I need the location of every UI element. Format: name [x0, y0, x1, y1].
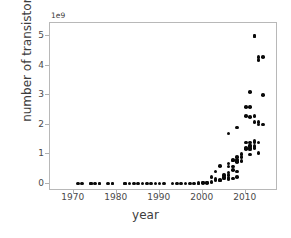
scatter-point — [227, 132, 231, 136]
scatter-point — [253, 144, 257, 148]
x-axis-tick-labels: 19701980199020002010 — [0, 192, 291, 208]
y-tick-mark — [45, 124, 49, 125]
scatter-point — [93, 182, 97, 186]
scatter-point — [106, 182, 110, 186]
y-tick-label: 1 — [38, 148, 44, 158]
scatter-point — [261, 93, 265, 97]
scatter-point — [111, 182, 115, 186]
scatter-point — [80, 182, 84, 186]
scatter-point — [253, 139, 257, 143]
scatter-point — [132, 182, 136, 186]
scatter-point — [210, 175, 214, 179]
scatter-point — [248, 105, 252, 109]
scatter-point — [248, 90, 252, 94]
scatter-point — [76, 182, 80, 186]
scatter-point — [231, 177, 235, 181]
plot-area — [49, 22, 277, 190]
x-axis-label: year — [0, 208, 291, 222]
y-tick-mark — [45, 65, 49, 66]
y-tick-label: 3 — [38, 89, 44, 99]
y-tick-label: 0 — [38, 178, 44, 188]
scatter-point — [128, 182, 132, 186]
scatter-point — [179, 182, 183, 186]
scatter-point — [149, 182, 153, 186]
scatter-point — [214, 170, 218, 174]
scatter-point — [244, 105, 248, 109]
y-tick-mark — [45, 94, 49, 95]
scatter-point — [235, 175, 239, 179]
y-tick-label: 2 — [38, 119, 44, 129]
scatter-point — [253, 114, 257, 118]
scatter-point — [231, 168, 235, 172]
scatter-point — [171, 182, 175, 186]
y-tick-label: 5 — [38, 30, 44, 40]
scatter-point — [248, 144, 252, 148]
scatter-point — [184, 182, 188, 186]
scatter-point — [123, 182, 127, 186]
scatter-point — [240, 159, 244, 163]
scatter-point — [248, 141, 252, 145]
scatter-point — [89, 182, 93, 186]
scatter-point — [192, 182, 196, 186]
scatter-point — [244, 146, 248, 150]
scatter-points-layer — [50, 23, 276, 189]
scatter-point — [261, 55, 265, 59]
scatter-point — [154, 182, 158, 186]
scatter-point — [253, 120, 257, 124]
scatter-point — [197, 181, 201, 185]
y-axis-label: number of transistors — [20, 0, 34, 142]
scatter-point — [231, 158, 235, 162]
scatter-point — [136, 182, 140, 186]
scatter-point — [162, 182, 166, 186]
scatter-point — [257, 120, 261, 124]
scatter-point — [240, 152, 244, 156]
x-tick-mark — [116, 190, 117, 194]
scatter-point — [205, 181, 209, 185]
scatter-point — [248, 115, 252, 119]
y-tick-label: 4 — [38, 60, 44, 70]
scatter-point — [248, 153, 252, 157]
scatter-point — [141, 182, 145, 186]
scatter-point — [261, 123, 265, 127]
scatter-point — [235, 170, 239, 174]
y-tick-mark — [45, 35, 49, 36]
scatter-point — [201, 181, 205, 185]
x-tick-mark — [202, 190, 203, 194]
scatter-point — [235, 126, 239, 130]
scatter-point — [244, 114, 248, 118]
scatter-point — [227, 165, 231, 169]
scatter-point — [253, 34, 257, 38]
scatter-point — [218, 178, 222, 182]
scatter-point — [158, 182, 162, 186]
y-tick-mark — [45, 153, 49, 154]
scatter-point — [98, 182, 102, 186]
scatter-point — [257, 151, 261, 155]
y-tick-mark — [45, 183, 49, 184]
scatter-point — [222, 173, 226, 177]
x-tick-mark — [159, 190, 160, 194]
chart-figure: 1e9 012345 19701980199020002010 year num… — [0, 0, 291, 238]
scatter-point — [145, 182, 149, 186]
scatter-point — [257, 141, 261, 145]
scatter-point — [231, 165, 235, 169]
scatter-point — [188, 182, 192, 186]
scatter-point — [210, 180, 214, 184]
scatter-point — [244, 141, 248, 145]
x-tick-mark — [73, 190, 74, 194]
scatter-point — [218, 164, 222, 168]
x-tick-mark — [245, 190, 246, 194]
scatter-point — [175, 182, 179, 186]
y-axis-offset-text: 1e9 — [51, 11, 65, 20]
scatter-point — [235, 155, 239, 159]
